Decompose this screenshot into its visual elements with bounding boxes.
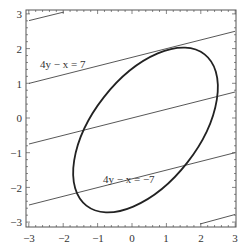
- line-cm14: [200, 215, 235, 225]
- svg-text:3: 3: [17, 8, 23, 20]
- svg-text:0: 0: [17, 112, 23, 124]
- y-tick-labels: 3 2 1 0 −1 −2 −3: [10, 8, 22, 228]
- svg-text:−3: −3: [10, 216, 22, 228]
- line-c14: [29, 12, 64, 21]
- svg-text:2: 2: [198, 232, 204, 244]
- x-tick-labels: −3 −2 −1 0 1 2 3: [23, 232, 238, 244]
- svg-text:0: 0: [129, 232, 135, 244]
- svg-text:−1: −1: [10, 147, 22, 159]
- svg-text:−2: −2: [58, 232, 70, 244]
- svg-text:3: 3: [232, 232, 238, 244]
- contour-plot: 4y − x = 7 4y − x = −7 −3 −2 −1 0 1 2 3 …: [0, 0, 250, 250]
- svg-text:1: 1: [163, 232, 169, 244]
- annotation-top: 4y − x = 7: [40, 58, 86, 70]
- annotation-bottom: 4y − x = −7: [103, 173, 155, 185]
- svg-text:1: 1: [17, 78, 23, 90]
- svg-text:−3: −3: [23, 232, 35, 244]
- svg-text:−2: −2: [10, 182, 22, 194]
- svg-text:−1: −1: [92, 232, 104, 244]
- svg-text:2: 2: [17, 43, 23, 55]
